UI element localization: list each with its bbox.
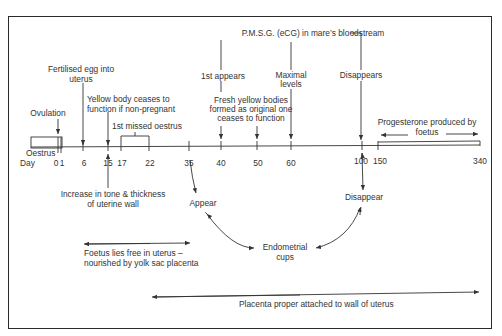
tick-40: 40: [216, 159, 225, 168]
tick-1: 1: [60, 159, 65, 168]
yellow-body-label-line2: function if non-pregnant: [87, 105, 175, 115]
tick-17: 17: [117, 159, 126, 168]
tick-6: 6: [82, 159, 87, 168]
tick-35: 35: [184, 159, 193, 168]
tick-22: 22: [145, 159, 154, 168]
tick-15: 15: [103, 159, 112, 168]
tick-150: 150: [373, 157, 387, 166]
diagram-lines: [0, 0, 502, 336]
day-axis-label: Day: [20, 159, 35, 169]
tick-60: 60: [286, 159, 295, 168]
pmsg-label: P.M.S.G. (eCG) in mare’s bloodstream: [242, 29, 385, 39]
cups-disappear-label: Disappear: [345, 193, 383, 203]
endometrial-cups-label-line2: cups: [276, 253, 294, 263]
ovulation-label: Ovulation: [30, 109, 65, 119]
first-appears-label: 1st appears: [201, 72, 245, 82]
disappears-label: Disappears: [340, 71, 382, 81]
oestrus-box: [31, 137, 62, 148]
progesterone-label-line2: foetus: [416, 128, 439, 138]
cups-appear-label: Appear: [189, 199, 216, 209]
foetus-free-label-line2: nourished by yolk sac placenta: [84, 259, 199, 269]
fertilised-label-line2: uterus: [69, 75, 92, 85]
tick-340: 340: [473, 157, 487, 166]
increase-tone-label-line2: of uterine wall: [87, 200, 139, 210]
tick-50: 50: [253, 159, 262, 168]
tick-100: 100: [354, 157, 368, 166]
tick-0: 0: [54, 159, 59, 168]
fresh-yellow-label-line3: ceases to function: [217, 114, 285, 124]
placenta-proper-label: Placenta proper attached to wall of uter…: [239, 300, 394, 310]
timeline-axis: [31, 145, 480, 147]
missed-oestrus-label: 1st missed oestrus: [112, 122, 182, 132]
maximal-label-line2: levels: [280, 80, 301, 90]
